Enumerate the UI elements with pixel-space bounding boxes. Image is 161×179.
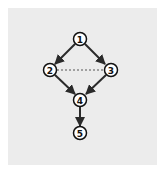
node-2-label: 2 <box>47 66 53 76</box>
graph-canvas: 1 2 3 4 5 <box>0 0 161 179</box>
edge-2-4 <box>55 75 75 94</box>
edge-1-3 <box>85 44 105 64</box>
edge-1-2 <box>55 44 75 64</box>
node-4-label: 4 <box>77 96 83 106</box>
node-5: 5 <box>74 127 87 140</box>
node-1: 1 <box>74 33 87 46</box>
node-4: 4 <box>74 94 87 107</box>
node-1-label: 1 <box>77 35 83 45</box>
node-3: 3 <box>105 64 118 77</box>
node-5-label: 5 <box>77 129 83 139</box>
node-2: 2 <box>44 64 57 77</box>
node-3-label: 3 <box>108 66 114 76</box>
edge-3-4 <box>86 75 106 94</box>
